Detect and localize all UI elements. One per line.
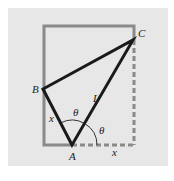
- angle-label-theta-right: θ: [99, 124, 105, 136]
- point-label-b: B: [32, 83, 39, 95]
- segment-label-x-bottom: x: [111, 146, 117, 158]
- angle-arc-bac: [61, 120, 85, 123]
- point-label-c: C: [138, 27, 146, 39]
- segment-label-x-ab: x: [48, 112, 54, 124]
- point-label-a: A: [68, 150, 76, 162]
- angle-label-theta-top: θ: [73, 106, 79, 118]
- triangle-abc: [43, 40, 133, 145]
- angle-arc-ground: [85, 124, 97, 145]
- segment-label-l: L: [92, 92, 99, 104]
- geometry-diagram: B C A L x x θ θ: [0, 0, 174, 181]
